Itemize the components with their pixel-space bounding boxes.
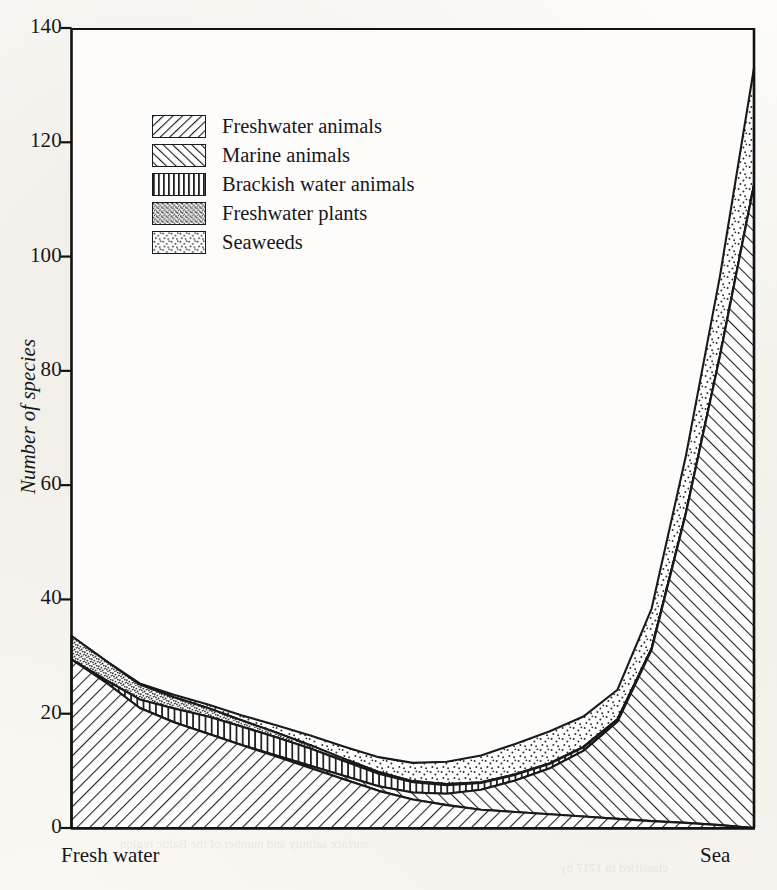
legend-swatch-sparse-stipple [152, 231, 206, 254]
legend-item-label: Seaweeds [222, 232, 303, 253]
stacked-area-chart: 020406080100120140 Number of species Fre… [0, 0, 777, 890]
y-axis-ticks [61, 28, 72, 828]
legend-item: Freshwater animals [152, 112, 414, 141]
legend-item-label: Freshwater plants [222, 203, 367, 224]
legend-item: Freshwater plants [152, 199, 414, 228]
legend-item-label: Freshwater animals [222, 116, 382, 137]
y-axis-tick-label: 40 [16, 585, 62, 610]
legend-item: Brackish water animals [152, 170, 414, 199]
legend-item-label: Brackish water animals [222, 174, 414, 195]
y-axis-tick-label: 20 [16, 700, 62, 725]
y-axis-title: Number of species [16, 337, 41, 497]
y-axis-tick-label: 100 [16, 243, 62, 268]
legend-swatch-backward-diagonal-hatch [152, 144, 206, 167]
y-axis-tick-label: 140 [16, 14, 62, 39]
legend-swatch-forward-diagonal-hatch [152, 115, 206, 138]
x-axis-label-fresh-water: Fresh water [61, 843, 160, 868]
legend-item: Seaweeds [152, 228, 414, 257]
legend-swatch-vertical-lines [152, 173, 206, 196]
y-axis-tick-label: 0 [16, 814, 62, 839]
legend-item: Marine animals [152, 141, 414, 170]
legend-item-label: Marine animals [222, 145, 350, 166]
chart-legend: Freshwater animalsMarine animalsBrackish… [152, 112, 414, 257]
legend-swatch-dense-stipple [152, 202, 206, 225]
x-axis-label-sea: Sea [700, 843, 730, 868]
y-axis-tick-label: 120 [16, 128, 62, 153]
